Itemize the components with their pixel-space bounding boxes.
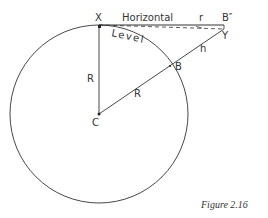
label-r-diagonal: R [134, 88, 141, 99]
label-horizontal: Horizontal [122, 12, 173, 23]
label-r-refraction: r [199, 12, 204, 23]
label-b-double-prime: B″ [222, 12, 233, 23]
radius-diagonal-line [99, 29, 224, 114]
right-angle-marker [98, 25, 101, 28]
earth-curvature-diagram: X Horizontal r B″ Y h B R R C Level Figu… [0, 0, 268, 218]
label-y: Y [221, 30, 229, 41]
point-c-dot [98, 113, 101, 116]
label-c: C [92, 117, 99, 128]
refraction-arc [196, 27, 202, 29]
label-h: h [200, 43, 206, 54]
label-r-vertical: R [87, 73, 94, 84]
point-b-dot [169, 65, 171, 67]
figure-caption: Figure 2.16 [200, 199, 248, 210]
label-level: Level [111, 27, 146, 45]
label-x: X [95, 12, 102, 23]
label-b: B [175, 61, 182, 72]
